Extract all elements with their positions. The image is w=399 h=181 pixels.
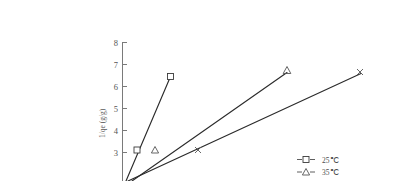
y-tick-label-8: 8 [114,38,118,48]
y-tick-label-3: 3 [114,148,118,158]
legend-label-25c: 25℃ [322,156,339,165]
y-axis-title: 1/qe (g/g) [98,108,107,138]
y-tick-label-5: 5 [114,104,118,114]
data-point-marker-square-low [134,147,140,153]
legend-marker-square-icon [303,157,309,163]
chart-figure: 8 7 6 5 4 3 1/qe (g/g) [0,0,399,181]
y-tick-label-6: 6 [114,82,118,92]
y-tick-label-7: 7 [114,60,118,70]
line-chart-plot: 8 7 6 5 4 3 1/qe (g/g) [0,0,399,181]
chart-background [0,0,399,181]
data-point-marker-square-high [168,74,174,80]
legend-label-35c: 35℃ [322,168,339,177]
